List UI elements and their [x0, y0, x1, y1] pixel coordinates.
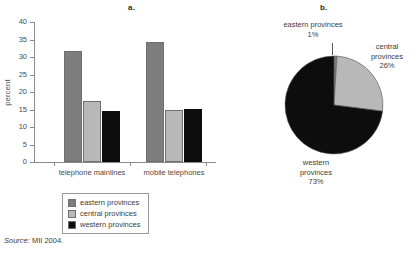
- pie-label-central-name-1: central: [356, 42, 418, 52]
- legend-swatch-eastern-icon: [68, 199, 76, 207]
- legend-swatch-western-icon: [68, 221, 76, 229]
- y-tick: 35: [30, 40, 34, 41]
- x-axis-line: [34, 162, 216, 163]
- x-group-label: telephone mainlines: [59, 168, 126, 177]
- pie-label-eastern-value: 1%: [254, 30, 372, 40]
- legend-label-western: western provinces: [80, 220, 140, 229]
- legend-item: western provinces: [68, 219, 140, 230]
- legend-label-eastern: eastern provinces: [80, 198, 139, 207]
- source-note: Source: MII 2004.: [4, 236, 63, 245]
- legend-item: eastern provinces: [68, 197, 140, 208]
- bar-chart-legend: eastern provinces central provinces west…: [62, 193, 149, 234]
- y-tick: 40: [30, 22, 34, 23]
- pie-label-eastern: eastern provinces 1%: [254, 20, 372, 39]
- pie-label-western: western provinces 73%: [266, 158, 366, 187]
- x-tick: [206, 162, 207, 166]
- x-tick: [54, 162, 55, 166]
- pie-label-eastern-name: eastern provinces: [254, 20, 372, 30]
- pie-leader-line-eastern: [332, 43, 333, 55]
- y-tick: 25: [30, 75, 34, 76]
- y-tick-label: 25: [19, 70, 27, 79]
- bar: [146, 42, 164, 162]
- pie-label-western-name-2: provinces: [266, 168, 366, 178]
- bar: [102, 111, 120, 162]
- pie-chart: eastern provinces 1% central provinces 2…: [228, 0, 418, 210]
- y-axis-line: [34, 22, 35, 162]
- source-note-text: MII 2004.: [32, 236, 63, 245]
- panel-a-label: a.: [128, 3, 135, 12]
- legend-label-central: central provinces: [80, 209, 137, 218]
- bar-chart-plot-area: 0510152025303540 telephone mainlinesmobi…: [34, 22, 216, 162]
- y-tick-label: 35: [19, 35, 27, 44]
- pie-label-central: central provinces 26%: [356, 42, 418, 71]
- bar: [64, 51, 82, 162]
- legend-swatch-central-icon: [68, 210, 76, 218]
- y-tick-label: 40: [19, 17, 27, 26]
- y-tick-label: 0: [23, 157, 27, 166]
- y-tick: 5: [30, 145, 34, 146]
- y-tick-label: 10: [19, 122, 27, 131]
- bar-chart: percent 0510152025303540 telephone mainl…: [0, 14, 222, 189]
- y-tick: 0: [30, 162, 34, 163]
- pie-label-western-name-1: western: [266, 158, 366, 168]
- x-group-label: mobile telephones: [144, 168, 205, 177]
- pie-label-western-value: 73%: [266, 177, 366, 187]
- y-tick: 30: [30, 57, 34, 58]
- y-tick: 10: [30, 127, 34, 128]
- y-tick-label: 20: [19, 87, 27, 96]
- y-tick-label: 30: [19, 52, 27, 61]
- y-tick: 15: [30, 110, 34, 111]
- bar: [83, 101, 101, 162]
- y-tick: 20: [30, 92, 34, 93]
- pie-label-central-value: 26%: [356, 61, 418, 71]
- source-note-lead: Source:: [4, 236, 30, 245]
- pie-label-central-name-2: provinces: [356, 52, 418, 62]
- y-axis-title: percent: [3, 67, 12, 119]
- bar: [184, 109, 202, 162]
- y-tick-label: 5: [23, 140, 27, 149]
- y-tick-label: 15: [19, 105, 27, 114]
- legend-item: central provinces: [68, 208, 140, 219]
- bar: [165, 110, 183, 163]
- x-tick: [130, 162, 131, 166]
